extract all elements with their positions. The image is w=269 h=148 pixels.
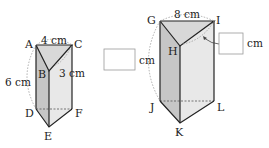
dim-height-6cm: 6 cm	[5, 76, 31, 88]
vertex-f: F	[75, 107, 83, 120]
unit-side-cm: cm	[247, 37, 263, 49]
large-prism: G I H J L K 8 cm cm cm	[104, 8, 263, 139]
unit-height-cm: cm	[139, 54, 155, 66]
vertex-i: I	[216, 14, 220, 27]
answer-box-side[interactable]	[219, 33, 243, 54]
vertex-j: J	[149, 101, 154, 114]
dim-side-3cm: 3 cm	[59, 67, 85, 79]
small-prism: A C B D F E 4 cm 3 cm 6 cm	[5, 34, 85, 143]
vertex-e: E	[44, 130, 52, 143]
dim-top-4cm: 4 cm	[41, 34, 67, 46]
vertex-h: H	[168, 45, 178, 58]
vertex-l: L	[217, 101, 225, 114]
vertex-k: K	[175, 126, 184, 139]
vertex-d: D	[25, 107, 34, 120]
answer-box-height[interactable]	[104, 49, 135, 70]
vertex-g: G	[147, 14, 156, 27]
prism-diagram: A C B D F E 4 cm 3 cm 6 cm G I H J L K 8…	[0, 0, 269, 148]
vertex-c: C	[74, 38, 82, 51]
vertex-b: B	[38, 68, 46, 81]
vertex-a: A	[24, 38, 34, 51]
dim-top-8cm: 8 cm	[174, 8, 200, 20]
